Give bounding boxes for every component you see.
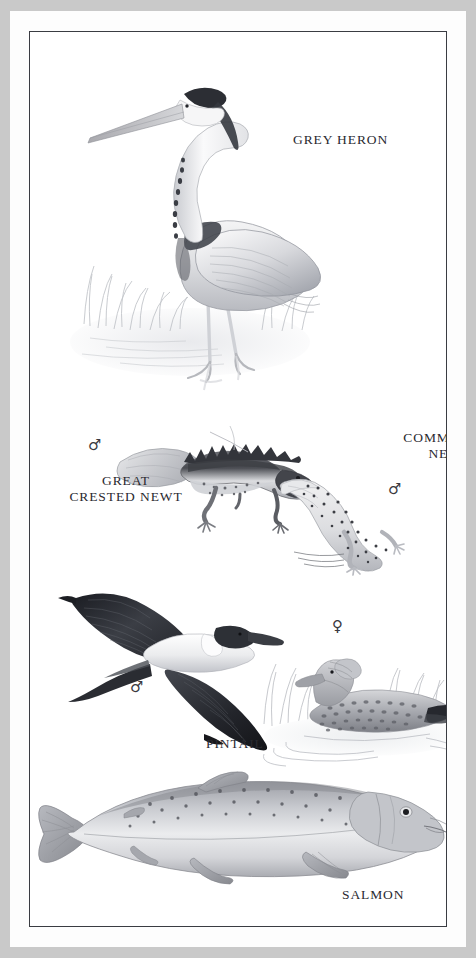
label-grey-heron: Grey Heron — [293, 132, 388, 148]
label-pintail: Pintail — [206, 736, 264, 752]
illustration-plate: Grey Heron Common Newt Great Crested New… — [30, 32, 446, 926]
pintail-female-illustration — [258, 640, 446, 758]
plate-mat: Grey Heron Common Newt Great Crested New… — [10, 11, 466, 947]
male-symbol-icon-pintail: ♂ — [130, 680, 143, 695]
label-common-newt: Common Newt — [387, 430, 446, 462]
plate-page: Grey Heron Common Newt Great Crested New… — [0, 0, 476, 958]
label-great-crested-newt: Great Crested Newt — [38, 473, 214, 505]
grey-heron-illustration — [60, 42, 320, 397]
label-salmon: Salmon — [342, 887, 404, 903]
plate-frame: Grey Heron Common Newt Great Crested New… — [29, 31, 447, 927]
female-symbol-icon-pintail: ♀ — [332, 619, 343, 634]
male-symbol-icon-common-newt: ♂ — [388, 482, 401, 497]
male-symbol-icon-great-crested-newt: ♂ — [88, 438, 101, 453]
